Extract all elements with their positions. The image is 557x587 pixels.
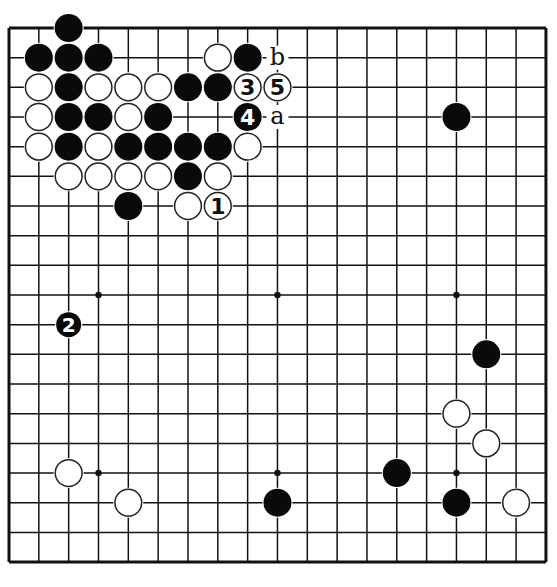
black-stone (441, 488, 471, 518)
numbered-white-stone: 5 (262, 72, 292, 102)
white-stone (441, 399, 471, 429)
white-stone (471, 428, 501, 458)
white-stone (24, 72, 54, 102)
white-stone (113, 161, 143, 191)
white-stone (143, 161, 173, 191)
white-stone (203, 43, 233, 73)
point-label-b: b (266, 43, 288, 71)
move-number: 3 (240, 75, 255, 100)
numbered-black-stone: 2 (55, 311, 82, 338)
black-stone (24, 43, 54, 73)
white-stone (113, 488, 143, 518)
white-stone (54, 161, 84, 191)
black-stone (54, 72, 84, 102)
black-stone (83, 102, 113, 132)
black-stone (262, 488, 292, 518)
point-label-a: a (266, 102, 288, 130)
star-point-icon (274, 470, 280, 476)
white-stone (173, 191, 203, 221)
black-stone (113, 132, 143, 162)
white-stone (143, 72, 173, 102)
star-point-icon (95, 470, 101, 476)
white-stone (83, 161, 113, 191)
black-stone (113, 191, 143, 221)
black-stone (143, 102, 173, 132)
white-stone (233, 132, 263, 162)
black-stone (173, 132, 203, 162)
white-stone (203, 161, 233, 191)
white-stone (501, 488, 531, 518)
numbered-white-stone: 3 (233, 72, 263, 102)
black-stone (471, 339, 501, 369)
white-stone (113, 72, 143, 102)
black-stone (233, 43, 263, 73)
white-stone (83, 72, 113, 102)
numbered-white-stone: 1 (203, 191, 233, 221)
go-board[interactable]: ba 35412 (0, 0, 557, 587)
white-stone (24, 132, 54, 162)
black-stone (54, 102, 84, 132)
black-stone (203, 132, 233, 162)
move-number: 1 (210, 194, 225, 219)
black-stone (54, 13, 84, 43)
black-stone (173, 72, 203, 102)
star-point-icon (274, 292, 280, 298)
move-number: 4 (240, 105, 255, 130)
star-point-icon (453, 292, 459, 298)
black-stone (54, 132, 84, 162)
white-stone (83, 132, 113, 162)
star-point-icon (95, 292, 101, 298)
svg-text:b: b (270, 43, 285, 71)
move-number: 5 (270, 75, 285, 100)
black-stone (203, 72, 233, 102)
white-stone (24, 102, 54, 132)
svg-text:a: a (270, 102, 284, 130)
star-point-icon (453, 470, 459, 476)
black-stone (54, 43, 84, 73)
black-stone (143, 132, 173, 162)
move-number: 2 (62, 313, 76, 337)
numbered-black-stone: 4 (233, 102, 263, 132)
white-stone (113, 102, 143, 132)
black-stone (83, 43, 113, 73)
black-stone (382, 458, 412, 488)
black-stone (173, 161, 203, 191)
black-stone (441, 102, 471, 132)
white-stone (54, 458, 84, 488)
